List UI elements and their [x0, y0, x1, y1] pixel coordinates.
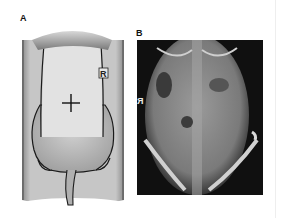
xray-image	[137, 40, 263, 195]
page-divider	[275, 0, 276, 218]
xray-side-marker-r: R	[137, 96, 144, 106]
rat-schematic-illustration: R	[0, 0, 130, 218]
panel-b-xray: R	[137, 40, 263, 195]
side-marker-r: R	[100, 69, 107, 79]
panel-b-label: B	[136, 28, 143, 38]
panel-a-schematic: R	[0, 0, 130, 218]
